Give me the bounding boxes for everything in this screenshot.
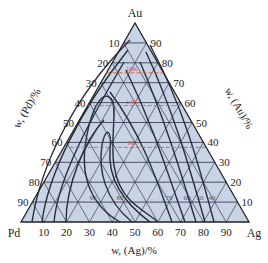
left-tick: 40	[74, 97, 86, 109]
left-tick: 80	[29, 176, 41, 188]
left-tick: 20	[97, 57, 109, 69]
right-tick: 50	[196, 117, 208, 129]
left-tick: 30	[86, 77, 98, 89]
left-tick: 10	[109, 37, 121, 49]
left-tick: 50	[63, 117, 75, 129]
right-tick: 80	[162, 57, 174, 69]
isoline-label: 90	[90, 194, 98, 202]
bottom-tick: 40	[107, 226, 119, 238]
right-tick: 30	[219, 156, 231, 168]
karat-label: 9K	[128, 139, 137, 147]
karat-label: 14K	[126, 98, 138, 106]
isoline-label: 50	[197, 194, 205, 202]
bottom-tick: 20	[61, 226, 73, 238]
bottom-tick: 80	[198, 226, 210, 238]
bottom-tick: 50	[130, 226, 142, 238]
triangle-plot: 18K14K9K908070605040	[21, 23, 249, 222]
isoline-label: 80	[117, 194, 125, 202]
bottom-tick: 70	[175, 226, 187, 238]
karat-label: 18K	[126, 65, 138, 73]
vertex-au-label: Au	[128, 6, 143, 20]
ternary-diagram: 18K14K9K908070605040 Au Pd Ag w, (Ag)/% …	[0, 0, 268, 263]
left-tick: 70	[40, 156, 52, 168]
bottom-tick: 30	[84, 226, 96, 238]
vertex-pd-label: Pd	[8, 226, 21, 240]
left-axis-title: w, (Pd)/%	[10, 86, 43, 131]
right-tick: 10	[242, 196, 254, 208]
bottom-axis-title: w, (Ag)/%	[111, 244, 157, 257]
left-tick: 90	[17, 196, 29, 208]
bottom-tick: 10	[38, 226, 50, 238]
right-tick: 60	[185, 97, 197, 109]
right-axis-title: w, (Au)/%	[222, 85, 256, 131]
right-tick: 90	[150, 37, 162, 49]
isoline-label: 40	[209, 194, 217, 202]
vertex-ag-label: Ag	[247, 226, 262, 240]
right-tick: 20	[230, 176, 242, 188]
left-tick: 60	[52, 136, 64, 148]
right-tick: 40	[207, 136, 219, 148]
bottom-tick: 90	[221, 226, 233, 238]
right-tick: 70	[173, 77, 185, 89]
isoline-label: 70	[166, 194, 174, 202]
isoline-label: 60	[184, 194, 192, 202]
bottom-tick: 60	[152, 226, 164, 238]
